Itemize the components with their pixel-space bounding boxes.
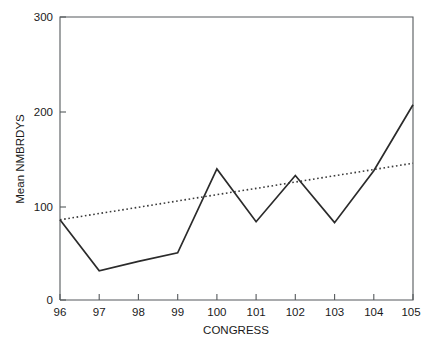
x-tick-label-101: 101 — [247, 306, 266, 318]
x-tick-label-103: 103 — [325, 306, 344, 318]
data-line-series — [60, 105, 413, 271]
chart-container: 0 100 200 300 96 97 98 99 100 101 102 10… — [0, 0, 435, 349]
line-chart: 0 100 200 300 96 97 98 99 100 101 102 10… — [0, 0, 435, 349]
x-tick-label-100: 100 — [207, 306, 226, 318]
x-tick-label-99: 99 — [171, 306, 184, 318]
y-axis-title: Mean NMBRDYS — [14, 114, 26, 204]
x-tick-label-97: 97 — [93, 306, 106, 318]
x-tick-label-96: 96 — [54, 306, 67, 318]
y-tick-label-200: 200 — [34, 106, 53, 118]
x-tick-label-104: 104 — [364, 306, 384, 318]
x-tick-label-105: 105 — [401, 306, 420, 318]
plot-frame — [60, 17, 413, 300]
x-tick-label-98: 98 — [132, 306, 145, 318]
trend-line-series — [60, 163, 413, 220]
x-axis-title: CONGRESS — [203, 324, 269, 336]
y-tick-label-100: 100 — [34, 201, 53, 213]
y-tick-label-0: 0 — [47, 294, 53, 306]
y-tick-label-300: 300 — [34, 11, 53, 23]
x-tick-label-102: 102 — [286, 306, 305, 318]
